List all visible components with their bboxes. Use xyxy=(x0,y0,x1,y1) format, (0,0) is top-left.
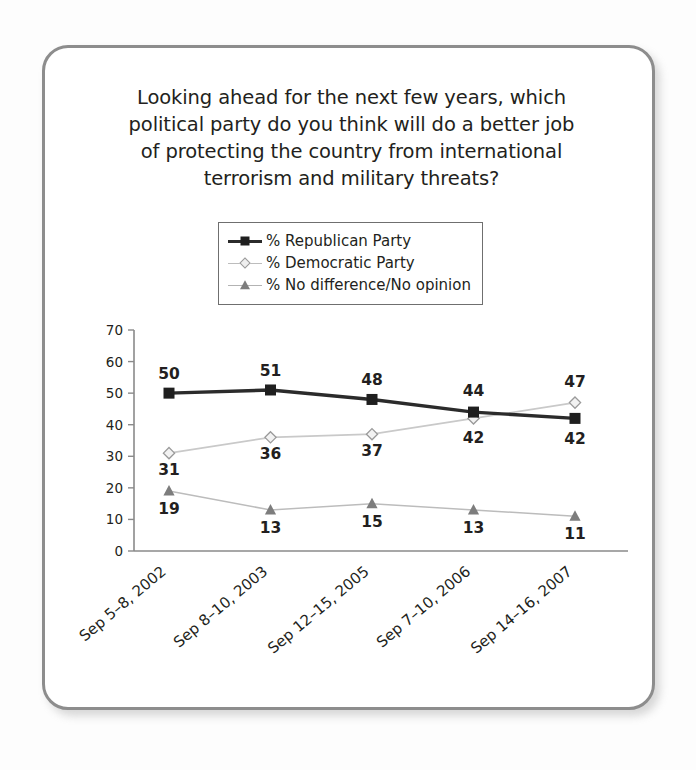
x-axis-category-label: Sep 8–10, 2003 xyxy=(170,562,271,651)
data-point-marker xyxy=(570,413,581,424)
data-point-marker xyxy=(164,388,175,399)
data-point-marker xyxy=(265,432,276,443)
y-axis-ticks: 010203040506070 xyxy=(106,322,134,559)
x-axis-category-label: Sep 12–15, 2005 xyxy=(264,562,372,657)
data-point-label: 13 xyxy=(260,519,282,537)
y-tick-label: 60 xyxy=(106,354,123,370)
data-point-label: 42 xyxy=(564,430,586,448)
data-point-label: 51 xyxy=(260,362,282,380)
data-point-marker xyxy=(163,448,174,459)
data-point-marker xyxy=(366,498,377,509)
data-point-label: 44 xyxy=(463,382,485,400)
x-axis-category-label: Sep 7–10, 2006 xyxy=(373,562,474,651)
y-tick-label: 20 xyxy=(106,480,123,496)
data-point-label: 47 xyxy=(564,373,586,391)
plot-area: 010203040506070 5051484442 3136374247 19… xyxy=(45,48,658,713)
page-background: Looking ahead for the next few years, wh… xyxy=(0,0,696,770)
data-point-label: 11 xyxy=(564,525,586,543)
y-tick-label: 10 xyxy=(106,511,123,527)
data-point-label: 31 xyxy=(158,461,180,479)
x-axis-labels: Sep 5–8, 2002Sep 8–10, 2003Sep 12–15, 20… xyxy=(76,562,576,657)
data-point-marker xyxy=(163,485,174,496)
y-tick-label: 30 xyxy=(106,448,123,464)
data-point-label: 13 xyxy=(463,519,485,537)
data-point-marker xyxy=(366,429,377,440)
data-point-marker xyxy=(468,407,479,418)
data-point-marker xyxy=(265,384,276,395)
chart-card: Looking ahead for the next few years, wh… xyxy=(42,45,655,710)
data-point-label: 15 xyxy=(361,513,383,531)
data-point-marker xyxy=(367,394,378,405)
x-axis-category-label: Sep 5–8, 2002 xyxy=(76,562,170,645)
data-point-label: 42 xyxy=(463,429,485,447)
x-axis-category-label: Sep 14–16, 2007 xyxy=(467,562,575,657)
data-point-label: 48 xyxy=(361,371,383,389)
data-point-label: 50 xyxy=(158,365,180,383)
y-tick-label: 40 xyxy=(106,417,123,433)
data-point-marker xyxy=(569,397,580,408)
chart-svg: 010203040506070 5051484442 3136374247 19… xyxy=(45,48,658,713)
data-point-label: 37 xyxy=(361,442,383,460)
data-point-label: 36 xyxy=(260,445,282,463)
y-tick-label: 50 xyxy=(106,385,123,401)
y-tick-label: 70 xyxy=(106,322,123,338)
data-point-label: 19 xyxy=(158,500,180,518)
y-tick-label: 0 xyxy=(114,543,123,559)
